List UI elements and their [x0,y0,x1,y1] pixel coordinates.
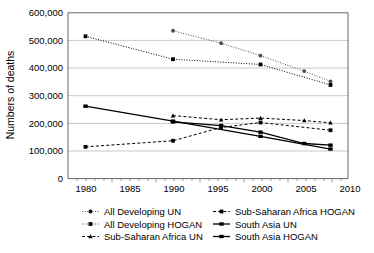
legend-swatch-all-developing-hogan [82,222,99,226]
series-south-asia-un [83,105,332,151]
data-point [258,130,262,133]
data-point [84,145,88,149]
legend-label: All Developing UN [104,206,181,217]
legend-item-all-developing-un: All Developing UN [82,206,181,217]
series-south-asia-hogan [171,120,333,147]
x-axis-tick-labels: 1980 1985 1990 1995 2000 2005 2010 [75,183,360,194]
data-point [171,29,175,33]
chart-figure: Numbers of deaths 600,000 500,000 400,00… [0,0,374,253]
series-all-developing-un [171,29,332,83]
data-point [328,143,332,146]
x-tick-label: 2010 [339,183,360,194]
legend-label: All Developing HOGAN [104,219,202,230]
y-tick-label: 500,000 [29,35,63,46]
legend-item-sub-saharan-africa-hogan: Sub-Saharan Africa HOGAN [213,206,355,217]
data-point [329,128,333,132]
y-tick-label: 300,000 [29,90,63,101]
series-line [86,123,331,147]
series-sub-saharan-africa-un [171,113,333,124]
series-all-developing-hogan [84,34,333,86]
series-line [173,31,331,82]
x-axis-tick-marks [77,179,341,183]
legend-swatch-sub-saharan-africa-un [82,234,99,238]
legend-swatch-south-asia-hogan [213,235,230,238]
grid-lines [68,40,348,151]
data-point [302,142,306,145]
y-tick-label: 200,000 [29,118,63,129]
y-axis-title: Numbers of deaths [4,51,16,140]
legend-label: South Asia HOGAN [235,231,318,242]
y-tick-label: 0 [58,173,63,184]
legend-label: Sub-Saharan Africa UN [104,231,203,242]
data-point [328,147,332,150]
chart-canvas: Numbers of deaths 600,000 500,000 400,00… [0,0,374,253]
data-point [83,105,87,108]
data-point [171,57,175,61]
data-point [219,41,223,45]
x-tick-label: 1985 [119,183,140,194]
data-point [329,83,333,87]
legend-item-all-developing-hogan: All Developing HOGAN [82,219,202,230]
chart-legend: All Developing UN All Developing HOGAN S… [82,206,355,242]
series-line [86,106,331,149]
series-line [86,36,331,85]
data-point [329,79,333,83]
x-tick-label: 2005 [295,183,316,194]
data-point [258,135,262,138]
data-point [219,124,223,127]
y-axis-tick-labels: 600,000 500,000 400,000 300,000 200,000 … [29,7,63,184]
data-point [171,139,175,143]
legend-label: Sub-Saharan Africa HOGAN [235,206,355,217]
y-tick-label: 600,000 [29,7,63,18]
data-point [171,120,175,123]
data-point [84,34,88,38]
legend-item-south-asia-hogan: South Asia HOGAN [213,231,318,242]
data-point [302,118,306,122]
x-tick-label: 2000 [251,183,272,194]
y-tick-label: 100,000 [29,145,63,156]
x-tick-label: 1980 [75,183,96,194]
x-tick-label: 1995 [207,183,228,194]
legend-item-sub-saharan-africa-un: Sub-Saharan Africa UN [82,231,203,242]
data-point [219,117,223,121]
series-line [173,116,331,123]
y-tick-label: 400,000 [29,62,63,73]
data-point [259,63,263,67]
data-point [302,69,306,73]
data-point [259,54,263,58]
x-tick-label: 1990 [163,183,184,194]
data-point [259,121,263,125]
legend-swatch-sub-saharan-africa-hogan [213,210,230,214]
legend-label: South Asia UN [235,219,297,230]
data-series-layer [83,29,332,151]
legend-swatch-south-asia-un [213,222,230,225]
legend-swatch-all-developing-un [82,210,99,214]
legend-item-south-asia-un: South Asia UN [213,219,297,230]
